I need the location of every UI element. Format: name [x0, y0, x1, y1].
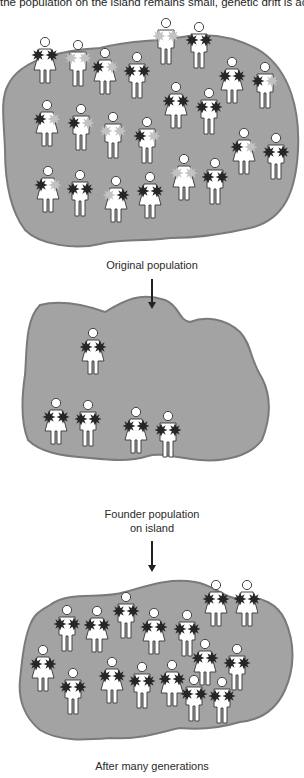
- arrow-down-icon: [151, 541, 153, 566]
- label-after-many-generations: After many generations: [0, 760, 304, 773]
- founder-effect-diagram: [0, 0, 304, 778]
- label-original-population: Original population: [0, 259, 304, 272]
- label-founder-population: Founder population: [0, 508, 304, 521]
- label-founder-population-line2: on island: [0, 522, 304, 535]
- arrow-down-icon: [151, 279, 153, 303]
